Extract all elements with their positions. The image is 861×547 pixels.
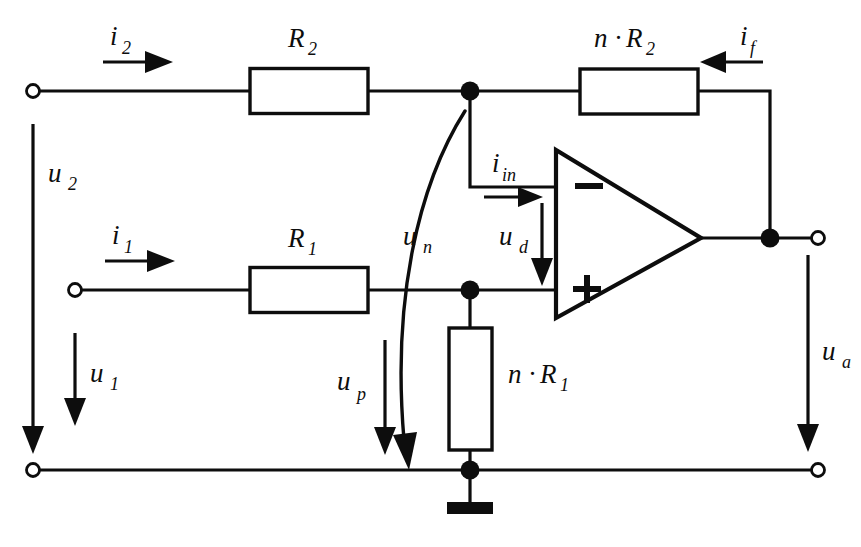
ground-symbol	[447, 502, 493, 514]
label-iin: i in	[492, 148, 516, 185]
svg-text:2: 2	[646, 39, 655, 59]
voltage-arrow-ua	[797, 255, 819, 452]
svg-text:2: 2	[122, 38, 131, 58]
voltage-arrow-ud	[531, 203, 553, 286]
wire-group	[40, 91, 811, 502]
resistor-r1-body	[250, 268, 368, 313]
current-arrow-i1	[105, 250, 175, 272]
svg-text:a: a	[842, 352, 851, 372]
current-arrow-i2	[103, 51, 173, 73]
reference-terminal-bottom-right[interactable]	[812, 464, 825, 477]
svg-text:f: f	[750, 38, 758, 58]
svg-text:1: 1	[124, 237, 133, 257]
label-nr2: n · R 2	[594, 23, 655, 59]
label-ud: u d	[499, 221, 529, 257]
svg-text:i: i	[112, 220, 120, 250]
svg-text:u: u	[48, 158, 62, 188]
circuit-diagram: i 2 R 2 n · R 2 i f u 2 i in i 1 R 1 u n	[0, 0, 861, 547]
svg-text:u: u	[822, 336, 836, 366]
output-terminal-right[interactable]	[812, 232, 825, 245]
label-if: i f	[740, 21, 758, 58]
svg-text:in: in	[502, 165, 516, 185]
voltage-arrow-u2	[22, 124, 44, 454]
svg-text:1: 1	[560, 375, 569, 395]
operational-amplifier-body	[556, 150, 701, 318]
svg-text:n: n	[594, 23, 608, 53]
resistor-nr2-body	[580, 69, 698, 114]
svg-text:R: R	[287, 223, 305, 253]
svg-text:1: 1	[110, 374, 119, 394]
svg-text:i: i	[110, 21, 118, 51]
svg-text:u: u	[337, 366, 351, 396]
node-inverting-top	[461, 82, 480, 101]
opamp-minus-icon	[575, 183, 603, 189]
svg-text:u: u	[90, 358, 104, 388]
svg-text:p: p	[355, 384, 366, 404]
label-i2: i 2	[110, 21, 131, 58]
resistor-nr1-body	[449, 328, 492, 450]
input-terminal-middle-left[interactable]	[69, 284, 82, 297]
svg-text:u: u	[403, 221, 417, 251]
svg-text:R: R	[539, 359, 557, 389]
current-arrow-iin	[484, 187, 543, 207]
label-u1: u 1	[90, 358, 119, 394]
svg-text:·: ·	[614, 23, 623, 53]
node-output	[761, 229, 780, 248]
svg-text:2: 2	[68, 174, 77, 194]
node-ground	[461, 461, 480, 480]
label-up: u p	[337, 366, 366, 404]
voltage-arrow-u1	[64, 333, 86, 426]
label-u2: u 2	[48, 158, 77, 194]
label-r1: R 1	[287, 223, 317, 259]
svg-text:1: 1	[308, 239, 317, 259]
svg-text:d: d	[519, 237, 529, 257]
wire-nr2-to-output-node	[698, 91, 770, 238]
label-i1: i 1	[112, 220, 133, 257]
svg-text:i: i	[740, 21, 748, 51]
label-ua: u a	[822, 336, 851, 372]
schematic-canvas: i 2 R 2 n · R 2 i f u 2 i in i 1 R 1 u n	[0, 0, 861, 547]
svg-text:n: n	[508, 359, 522, 389]
svg-text:i: i	[492, 148, 500, 178]
label-nr1: n · R 1	[508, 359, 569, 395]
input-terminal-top-left[interactable]	[27, 85, 40, 98]
resistor-r2-body	[250, 69, 368, 114]
reference-terminal-bottom-left[interactable]	[27, 464, 40, 477]
node-noninverting	[461, 281, 480, 300]
svg-text:2: 2	[308, 39, 317, 59]
svg-text:·: ·	[528, 359, 537, 389]
svg-text:n: n	[423, 237, 432, 257]
svg-text:R: R	[287, 23, 305, 53]
label-r2: R 2	[287, 23, 317, 59]
svg-text:u: u	[499, 221, 513, 251]
svg-text:R: R	[625, 23, 643, 53]
voltage-arrow-up	[374, 340, 396, 455]
